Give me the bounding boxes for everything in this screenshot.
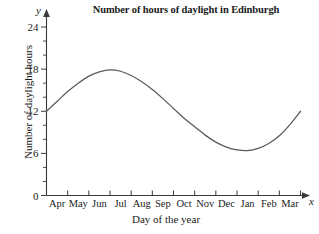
y-tick-label: 24 xyxy=(28,21,40,33)
y-tick-label: 0 xyxy=(33,190,39,202)
y-tick-label: 12 xyxy=(28,105,39,117)
y-axis-ticks: 06121824 xyxy=(28,21,47,202)
x-tick-label: Aug xyxy=(133,198,152,209)
daylight-curve xyxy=(47,70,301,151)
y-tick-label: 6 xyxy=(33,147,39,159)
x-tick-label: May xyxy=(69,198,89,209)
x-tick-label: Nov xyxy=(196,198,215,209)
y-axis-letter: y xyxy=(35,4,41,16)
x-axis-letter: x xyxy=(308,195,314,207)
x-tick-label: Jun xyxy=(92,198,107,209)
y-axis-arrowhead xyxy=(43,9,50,17)
x-tick-label: Oct xyxy=(176,198,191,209)
x-tick-label: Jan xyxy=(241,198,256,209)
x-axis-tick-labels: AprMayJunJulAugSepOctNovDecJanFebMar xyxy=(49,198,299,209)
x-axis-ticks xyxy=(47,191,301,196)
x-tick-label: Sep xyxy=(155,198,171,209)
chart-figure: Number of hours of daylight in Edinburgh… xyxy=(0,0,319,234)
chart-plot-area: 06121824 AprMayJunJulAugSepOctNovDecJanF… xyxy=(0,0,319,234)
y-tick-label: 18 xyxy=(28,63,40,75)
x-tick-label: Feb xyxy=(261,198,277,209)
x-tick-label: Jul xyxy=(114,198,126,209)
x-tick-label: Apr xyxy=(49,198,66,209)
x-tick-label: Mar xyxy=(281,198,299,209)
x-tick-label: Dec xyxy=(218,198,235,209)
